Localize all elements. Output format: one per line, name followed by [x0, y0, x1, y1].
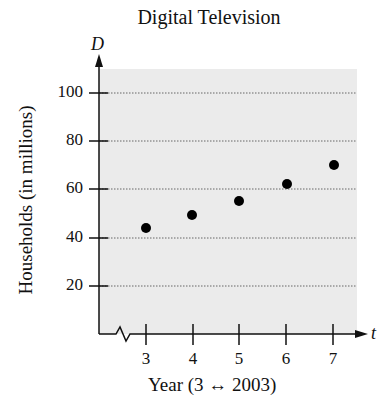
x-axis-arrow-icon [355, 330, 368, 338]
x-tick-label: 5 [229, 349, 249, 369]
y-axis-arrow-icon [95, 54, 103, 67]
plot-background [99, 69, 357, 334]
data-point [234, 196, 244, 206]
y-tick-label: 100 [43, 82, 83, 102]
data-point [282, 179, 292, 189]
x-tick-label: 4 [183, 349, 203, 369]
y-tick-label: 40 [43, 227, 83, 247]
y-tick-label: 80 [43, 130, 83, 150]
y-variable-label: D [91, 34, 104, 55]
x-tick-label: 7 [323, 349, 343, 369]
y-tick-label: 60 [43, 178, 83, 198]
data-point [329, 160, 339, 170]
x-tick-label: 3 [136, 349, 156, 369]
x-tick-label: 6 [276, 349, 296, 369]
x-axis-title: Year (3 ↔ 2003) [148, 374, 276, 396]
data-point [187, 210, 197, 220]
scatter-chart: Digital Television [0, 0, 390, 411]
y-tick-label: 20 [43, 275, 83, 295]
y-axis-title: Households (in millions) [15, 106, 37, 295]
data-point [141, 223, 151, 233]
x-variable-label: t [371, 323, 376, 344]
